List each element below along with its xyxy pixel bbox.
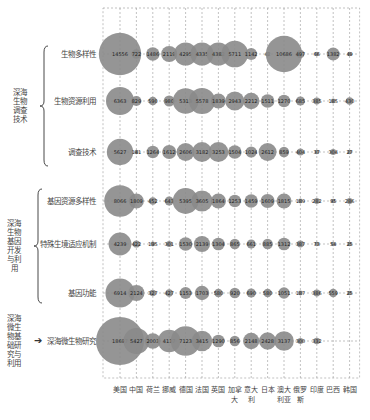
group-label: 究与 bbox=[7, 349, 21, 359]
bubble-value: 3253 bbox=[212, 149, 225, 155]
x-tick-label-line2: 大 bbox=[231, 395, 238, 404]
bubble-value: 3137 bbox=[278, 338, 291, 344]
row-label: 生物多样性 bbox=[61, 49, 97, 59]
bubble-value: 3605 bbox=[196, 198, 209, 204]
x-tick-label: 印度 bbox=[310, 385, 324, 394]
bubble-value: 5427 bbox=[130, 338, 143, 344]
bubble-value: 590 bbox=[148, 98, 158, 104]
x-tick-label: 俄罗 bbox=[293, 385, 307, 394]
bubble-value: 1142 bbox=[245, 51, 258, 57]
bubble-value: 2943 bbox=[228, 98, 241, 104]
bubble-value: 2212 bbox=[245, 98, 258, 104]
bubble-value: 1024 bbox=[245, 149, 258, 155]
bubble-value: 1809 bbox=[130, 198, 143, 204]
group-label: 深海 bbox=[13, 87, 28, 97]
x-tick-label-line2: 斯 bbox=[297, 395, 304, 404]
x-tick-label: 加拿 bbox=[228, 385, 242, 394]
group-label: 生物 bbox=[13, 96, 28, 106]
bubble-value: 25 bbox=[346, 241, 352, 247]
bubble-value: 452 bbox=[148, 198, 158, 204]
bubble-value: 1486 bbox=[146, 51, 159, 57]
bubble-value: 386 bbox=[312, 290, 322, 296]
bubble-value: 1504 bbox=[228, 149, 241, 155]
bubble-value: 3415 bbox=[196, 338, 209, 344]
group-label: 深海 bbox=[7, 218, 22, 228]
bubble-value: 4295 bbox=[179, 51, 192, 57]
x-tick-label: 挪威 bbox=[162, 385, 176, 394]
bubble-value: 1304 bbox=[212, 241, 225, 247]
row-label: 调查技术 bbox=[68, 147, 97, 157]
group-label: 微生 bbox=[7, 322, 22, 332]
bubble-value: 6363 bbox=[114, 98, 127, 104]
bubble-chart: 1455672214862119429543354382571111424210… bbox=[0, 0, 370, 420]
bubble-value: 10686 bbox=[276, 51, 292, 57]
x-tick-label: 中国 bbox=[129, 385, 143, 394]
bubble-value: 301 bbox=[164, 241, 174, 247]
group-label: 生物 bbox=[7, 227, 22, 237]
bubble-value: 8066 bbox=[114, 198, 127, 204]
bubble-value: 722 bbox=[132, 51, 142, 57]
bubble-value: 1312 bbox=[278, 241, 291, 247]
bubble-value: 580 bbox=[263, 290, 273, 296]
x-tick-label: 澳大 bbox=[277, 385, 291, 394]
group-label: 用 bbox=[11, 264, 18, 273]
bubble-value: 2428 bbox=[261, 338, 274, 344]
x-tick-label: 美国 bbox=[113, 385, 127, 394]
group-label: 物基 bbox=[7, 331, 22, 341]
bubble-value: 920 bbox=[230, 290, 240, 296]
x-tick-label-line2: 利 bbox=[248, 395, 255, 404]
bubble-value: 304 bbox=[328, 149, 338, 155]
x-tick-label: 意大 bbox=[244, 385, 258, 394]
bubble-value: 7123 bbox=[179, 338, 192, 344]
bubble-value: 4239 bbox=[114, 241, 127, 247]
bubble-value: 1612 bbox=[163, 149, 176, 155]
chart-canvas: 1455672214862119429543354382571111424210… bbox=[0, 0, 370, 420]
bubble-value: 497 bbox=[296, 51, 306, 57]
group-label: 技术 bbox=[13, 114, 28, 124]
bubble-value: 3182 bbox=[196, 149, 209, 155]
bubble-value: 2606 bbox=[179, 149, 192, 155]
x-tick-label-line2: 利亚 bbox=[277, 395, 291, 404]
group-label: 深海 bbox=[7, 313, 22, 323]
bubble-value: 95 bbox=[330, 198, 336, 204]
brace-icon bbox=[40, 46, 48, 166]
bubble-value: 690 bbox=[246, 290, 256, 296]
bubble-value: 1864 bbox=[212, 198, 225, 204]
x-tick-label: 日本 bbox=[261, 385, 275, 394]
bubble-value: 2139 bbox=[196, 241, 209, 247]
bubble-value: 1382 bbox=[327, 51, 340, 57]
bubble-value: 865 bbox=[230, 241, 240, 247]
bubble-value: 1609 bbox=[261, 198, 274, 204]
bubble-value: 859 bbox=[279, 149, 289, 155]
bubble-value: 1270 bbox=[278, 98, 291, 104]
bubble-value: 54 bbox=[330, 241, 336, 247]
row-label: 深海微生物研究 bbox=[47, 336, 97, 346]
bubble-value: 332 bbox=[312, 338, 322, 344]
x-tick-label: 韩国 bbox=[343, 385, 357, 394]
group-label: 调查 bbox=[13, 105, 28, 115]
x-tick-label: 法国 bbox=[195, 385, 209, 394]
bubble-value: 1290 bbox=[212, 338, 225, 344]
row-label: 基因资源多样性 bbox=[47, 196, 97, 206]
bubble-value: 27 bbox=[346, 149, 352, 155]
bubble-value: 661 bbox=[246, 241, 256, 247]
bubble-value: 5578 bbox=[196, 98, 209, 104]
bubble-value: 885 bbox=[263, 241, 273, 247]
bubble-value: 427 bbox=[164, 290, 174, 296]
bubble-value: 385 bbox=[312, 98, 322, 104]
bubble-value: 1703 bbox=[196, 290, 209, 296]
group-label: 开发 bbox=[7, 245, 22, 255]
bubble-value: 14556 bbox=[112, 51, 128, 57]
bubble-value: 1264 bbox=[146, 149, 159, 155]
bubble-value: 430 bbox=[345, 98, 355, 104]
bubble-value: 25 bbox=[346, 290, 352, 296]
bubble-value: 980 bbox=[164, 98, 174, 104]
bubble-value: 1815 bbox=[278, 198, 291, 204]
bubble-value: 685 bbox=[296, 98, 306, 104]
bubble-value: 141 bbox=[132, 149, 142, 155]
bubble-value: 856 bbox=[230, 338, 240, 344]
bubble-value: 5711 bbox=[228, 51, 241, 57]
bubble-value: 1511 bbox=[261, 98, 274, 104]
bubble-value: 2148 bbox=[245, 338, 258, 344]
bubble-value: 286 bbox=[345, 198, 355, 204]
